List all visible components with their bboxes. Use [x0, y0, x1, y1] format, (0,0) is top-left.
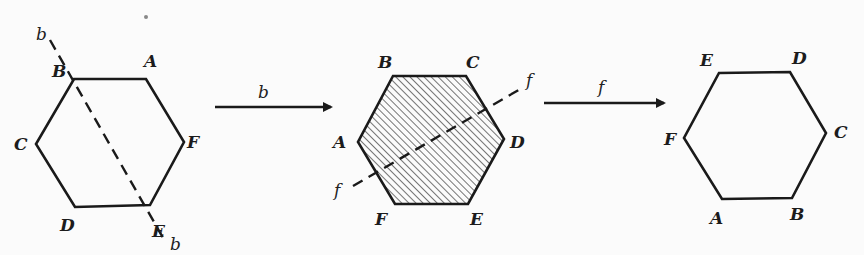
axis-label-f-top: f: [524, 70, 535, 90]
vertex-label-right: F: [186, 132, 201, 152]
vertex-label-bottom-left: D: [59, 215, 75, 235]
vertex-label-left: C: [14, 134, 28, 154]
vertex-label-bottom-right: E: [151, 221, 166, 241]
vertex-label-top-right: A: [142, 51, 157, 71]
vertex-label-bottom-left: A: [708, 208, 723, 228]
arrow-b: b: [215, 82, 331, 107]
axis-label-b-top: b: [36, 24, 47, 44]
vertex-label-top-right: D: [791, 48, 807, 68]
vertex-label-bottom-right: E: [469, 209, 484, 229]
hexagon-initial: b b B A F E D C: [14, 24, 201, 254]
vertex-label-left: A: [331, 132, 346, 152]
vertex-label-top-left: E: [699, 50, 714, 70]
vertex-label-left: F: [663, 129, 678, 149]
vertex-label-top-left: B: [51, 61, 66, 81]
hexagon-outline: [684, 72, 826, 199]
vertex-label-top-left: B: [377, 52, 392, 72]
vertex-label-top-right: C: [466, 52, 480, 72]
vertex-label-bottom-left: F: [374, 209, 389, 229]
arrow-label-b: b: [258, 82, 269, 102]
speck: [144, 15, 148, 19]
hexagon-reflection-diagram: b b B A F E D C b f f B C D E F A f E D …: [0, 0, 864, 255]
hexagon-outline: [36, 79, 184, 207]
arrow-f: f: [544, 77, 664, 103]
vertex-label-bottom-right: B: [789, 204, 804, 224]
hexagon-after-b: f f B C D E F A: [331, 52, 535, 229]
hexagon-after-f: E D C B A F: [663, 48, 848, 228]
arrow-label-f: f: [596, 77, 607, 97]
axis-label-f-bottom: f: [332, 180, 343, 200]
axis-label-b-bottom: b: [170, 234, 181, 254]
vertex-label-right: C: [834, 122, 848, 142]
vertex-label-right: D: [509, 132, 525, 152]
